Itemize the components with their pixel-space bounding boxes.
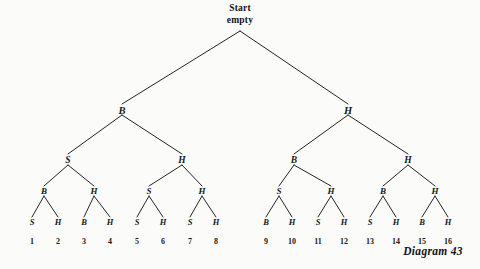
edge-l2-l3-0 — [68, 115, 122, 154]
leaf-number-14: 14 — [392, 237, 400, 246]
edge-l4-leaf-13 — [383, 196, 396, 217]
figure-caption: Diagram 43 — [403, 245, 463, 257]
leaf-number-6: 6 — [161, 237, 165, 246]
tree-leaf-10: S — [316, 217, 321, 227]
tree-leaf-4: S — [135, 217, 140, 227]
edge-l4-leaf-12 — [370, 196, 383, 217]
edge-l4-leaf-5 — [149, 196, 163, 217]
edge-l4-leaf-1 — [44, 196, 58, 217]
edge-l4-leaf-10 — [318, 196, 331, 217]
root-label-line2: empty — [227, 15, 253, 27]
leaf-number-9: 9 — [264, 237, 268, 246]
leaf-number-3: 3 — [82, 237, 86, 246]
edge-l3-l4-7 — [408, 165, 435, 186]
tree-node-level4-2: S — [146, 186, 151, 196]
edge-l4-leaf-15 — [435, 196, 448, 217]
edge-l4-leaf-3 — [94, 196, 110, 217]
tree-leaf-1: H — [55, 217, 62, 227]
tree-edges — [0, 0, 480, 269]
tree-leaf-13: H — [393, 217, 400, 227]
edge-root-1 — [240, 31, 348, 104]
tree-node-level4-5: H — [327, 186, 334, 196]
edge-l4-leaf-6 — [190, 196, 202, 217]
tree-node-level4-7: H — [431, 186, 438, 196]
edge-l4-leaf-0 — [32, 196, 44, 217]
leaf-number-7: 7 — [188, 237, 192, 246]
edge-l4-leaf-7 — [202, 196, 216, 217]
tree-leaf-11: H — [341, 217, 348, 227]
edge-l3-l4-5 — [294, 165, 331, 186]
edge-l4-leaf-9 — [279, 196, 292, 217]
edge-l2-l3-2 — [294, 115, 348, 154]
tree-node-level3-0: S — [65, 155, 70, 165]
tree-leaf-3: H — [107, 217, 114, 227]
edge-l3-l4-6 — [383, 165, 408, 186]
diagram-canvas: Start empty BHSHBHBHSHSHBHSHBHSHSHBHSHSH… — [0, 0, 480, 269]
root-label-line1: Start — [227, 3, 253, 15]
tree-node-level2-0: B — [118, 105, 125, 116]
edge-l4-leaf-11 — [331, 196, 344, 217]
leaf-number-10: 10 — [288, 237, 296, 246]
edge-l4-leaf-8 — [266, 196, 279, 217]
leaf-number-11: 11 — [314, 237, 322, 246]
tree-node-level4-4: S — [276, 186, 281, 196]
tree-node-level4-0: B — [41, 186, 47, 196]
tree-leaf-6: S — [188, 217, 193, 227]
leaf-number-2: 2 — [56, 237, 60, 246]
tree-node-level3-1: H — [178, 155, 185, 165]
edge-l4-leaf-14 — [422, 196, 435, 217]
edge-l3-l4-1 — [68, 165, 94, 186]
edge-l4-leaf-4 — [137, 196, 149, 217]
tree-leaf-14: B — [419, 217, 425, 227]
edge-l3-l4-2 — [149, 165, 182, 186]
tree-leaf-2: B — [81, 217, 87, 227]
leaf-number-8: 8 — [214, 237, 218, 246]
edge-l3-l4-3 — [182, 165, 202, 186]
edge-l3-l4-0 — [44, 165, 68, 186]
tree-leaf-7: H — [213, 217, 220, 227]
tree-node-level4-3: H — [198, 186, 205, 196]
tree-node-level3-3: H — [404, 155, 411, 165]
tree-leaf-0: S — [30, 217, 35, 227]
edge-l2-l3-3 — [348, 115, 408, 154]
tree-leaf-12: S — [368, 217, 373, 227]
leaf-number-12: 12 — [340, 237, 348, 246]
tree-leaf-8: B — [263, 217, 269, 227]
leaf-number-5: 5 — [135, 237, 139, 246]
edge-l4-leaf-2 — [84, 196, 94, 217]
edge-l2-l3-1 — [122, 115, 182, 154]
tree-node-level4-6: B — [380, 186, 386, 196]
edge-root-0 — [122, 31, 240, 104]
root-node-start-empty: Start empty — [227, 3, 253, 26]
leaf-number-13: 13 — [366, 237, 374, 246]
tree-node-level3-2: B — [291, 155, 297, 165]
tree-node-level2-1: H — [344, 105, 352, 116]
tree-leaf-15: H — [445, 217, 452, 227]
leaf-number-4: 4 — [108, 237, 112, 246]
leaf-number-1: 1 — [30, 237, 34, 246]
tree-node-level4-1: H — [90, 186, 97, 196]
edge-l3-l4-4 — [279, 165, 294, 186]
tree-leaf-9: H — [289, 217, 296, 227]
tree-leaf-5: H — [160, 217, 167, 227]
